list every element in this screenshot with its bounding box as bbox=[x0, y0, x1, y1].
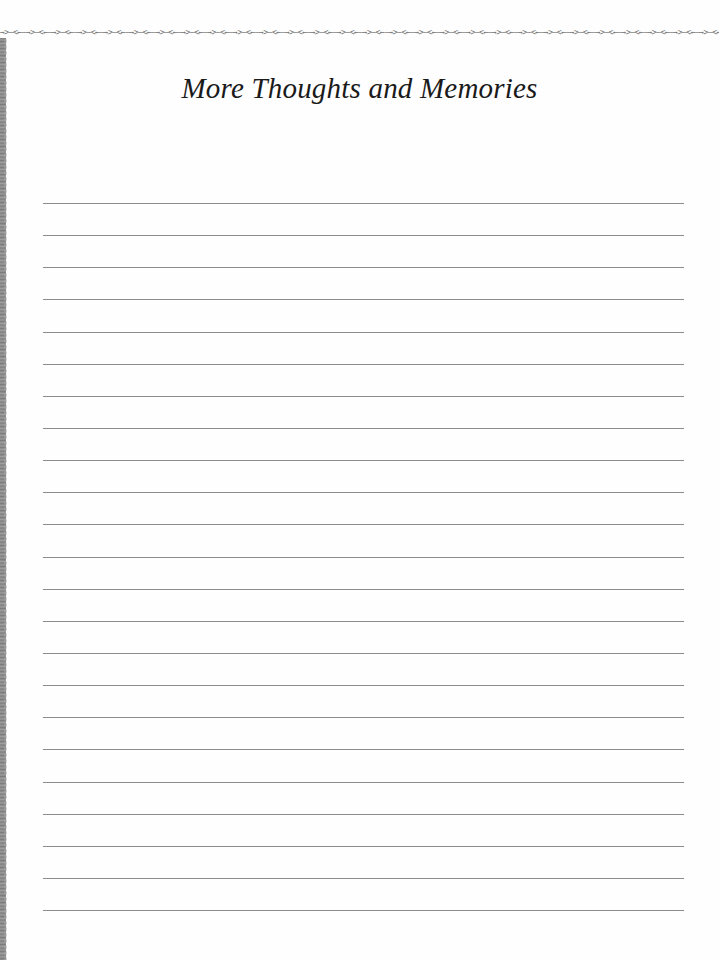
decorative-left-border bbox=[0, 38, 6, 960]
ruled-line bbox=[43, 492, 684, 493]
ruled-line bbox=[43, 782, 684, 783]
ruled-line bbox=[43, 235, 684, 236]
ruled-line bbox=[43, 749, 684, 750]
ruled-line bbox=[43, 203, 684, 204]
ruled-line bbox=[43, 557, 684, 558]
ruled-line bbox=[43, 653, 684, 654]
ruled-line bbox=[43, 460, 684, 461]
ruled-line bbox=[43, 685, 684, 686]
ruled-line bbox=[43, 524, 684, 525]
ruled-line bbox=[43, 621, 684, 622]
ruled-line bbox=[43, 717, 684, 718]
ruled-line bbox=[43, 910, 684, 911]
ruled-line bbox=[43, 364, 684, 365]
ruled-line bbox=[43, 428, 684, 429]
ruled-line bbox=[43, 846, 684, 847]
journal-page: →>–<←–→>–<←–→>–<←–→>–<←–→>–<←–→>–<←–→>–<… bbox=[0, 0, 719, 960]
decorative-top-border: →>–<←–→>–<←–→>–<←–→>–<←–→>–<←–→>–<←–→>–<… bbox=[0, 28, 719, 38]
ruled-line bbox=[43, 299, 684, 300]
ruled-line bbox=[43, 589, 684, 590]
ruled-line bbox=[43, 267, 684, 268]
ruled-writing-area[interactable] bbox=[43, 203, 684, 913]
ruled-line bbox=[43, 396, 684, 397]
ruled-line bbox=[43, 878, 684, 879]
ruled-line bbox=[43, 332, 684, 333]
page-title: More Thoughts and Memories bbox=[0, 72, 719, 105]
ruled-line bbox=[43, 814, 684, 815]
